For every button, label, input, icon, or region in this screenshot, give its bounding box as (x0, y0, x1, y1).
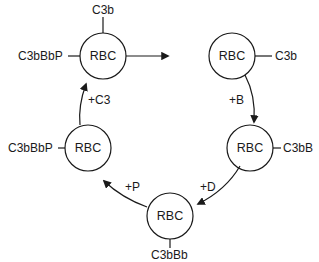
c4-bottom-attachment-label: C3bBb (151, 248, 188, 262)
rbc-cell-3-label: RBC (230, 141, 270, 155)
step-add-p-label: +P (125, 180, 140, 194)
rbc-cell-1-label: RBC (83, 49, 123, 63)
step-add-b-label: +B (229, 93, 244, 107)
arrow-add-b (245, 75, 254, 122)
rbc-cell-4-label: RBC (150, 209, 190, 223)
c5-left-attachment-label: C3bBbP (8, 141, 53, 155)
step-add-c3-label: +C3 (88, 93, 110, 107)
rbc-cell-5-label: RBC (68, 141, 108, 155)
c2-right-attachment-label: C3b (275, 49, 297, 63)
c1-top-attachment-label: C3b (92, 3, 114, 17)
step-add-d-label: +D (200, 180, 216, 194)
c3-right-attachment-label: C3bB (283, 141, 313, 155)
c1-left-attachment-label: C3bBbP (18, 49, 63, 63)
complement-amplification-diagram: RBC RBC RBC RBC RBC C3b C3bBbP C3b C3bB … (0, 0, 319, 262)
arrow-add-c3 (80, 84, 86, 125)
rbc-cell-2-label: RBC (212, 49, 252, 63)
